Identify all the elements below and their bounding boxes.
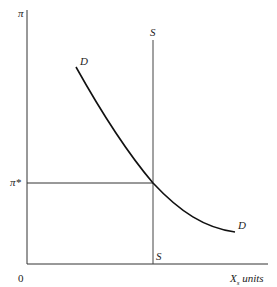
x-axis-sub: s	[237, 279, 240, 287]
x-axis-units: units	[242, 272, 263, 284]
supply-label-bottom: S	[156, 251, 162, 262]
demand-curve	[76, 67, 235, 232]
origin-label: 0	[18, 273, 24, 284]
x-axis-label: Xs units	[230, 273, 264, 287]
demand-label-bottom: D	[238, 220, 246, 231]
supply-label-top: S	[150, 27, 156, 38]
demand-label-top: D	[80, 56, 88, 67]
supply-demand-diagram	[0, 0, 277, 287]
pi-star-label: π*	[10, 177, 21, 188]
y-axis-label: π	[18, 8, 24, 19]
x-axis-var: X	[230, 272, 237, 284]
